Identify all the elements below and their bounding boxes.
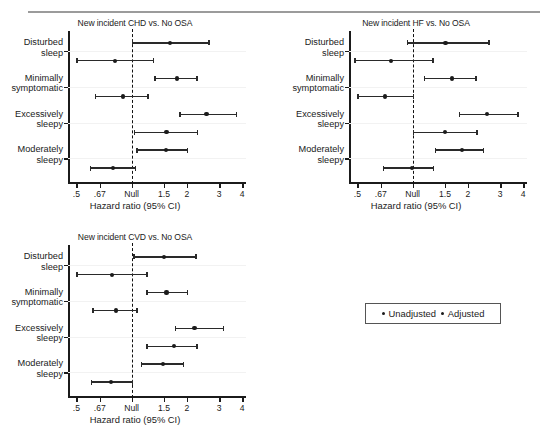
x-tick	[132, 398, 133, 402]
ci-cap	[187, 290, 188, 295]
point-estimate-marker	[111, 166, 115, 170]
confidence-interval-line	[175, 328, 223, 330]
ci-cap	[146, 344, 147, 349]
point-estimate-marker	[168, 41, 172, 45]
point-estimate-marker	[172, 344, 176, 348]
ci-cap	[134, 130, 135, 135]
category-label-line: Minimally	[280, 73, 344, 84]
x-tick-label: .67	[94, 403, 106, 413]
category-separator	[349, 87, 527, 88]
confidence-interval-line	[435, 149, 483, 151]
category-label: Moderatelysleepy	[280, 144, 344, 165]
category-label: Excessivelysleepy	[280, 109, 344, 130]
x-tick-label: 2	[184, 189, 189, 199]
x-tick	[164, 398, 165, 402]
ci-cap	[354, 58, 355, 63]
point-estimate-marker	[410, 166, 414, 170]
x-tick	[187, 398, 188, 402]
x-tick-label: 3	[217, 189, 222, 199]
point-estimate-marker	[450, 76, 454, 80]
category-label: Disturbedsleep	[280, 37, 344, 58]
panel-chd-title: New incident CHD vs. No OSA	[0, 18, 270, 28]
ci-cap	[197, 130, 198, 135]
null-reference-line	[132, 243, 133, 398]
ci-cap	[196, 76, 197, 81]
x-tick-label: 4	[521, 189, 526, 199]
legend-label-unadjusted: Unadjusted	[389, 308, 436, 319]
x-tick-label: .67	[375, 189, 387, 199]
point-estimate-marker	[164, 148, 168, 152]
y-axis-line	[68, 245, 70, 398]
ci-cap	[459, 112, 460, 117]
x-tick	[100, 398, 101, 402]
x-tick-label: 3	[498, 189, 503, 199]
x-tick	[445, 184, 446, 188]
ci-cap	[383, 166, 384, 171]
point-estimate-marker	[192, 326, 196, 330]
ci-cap	[95, 94, 96, 99]
x-tick	[132, 184, 133, 188]
x-tick-label: 2	[465, 189, 470, 199]
point-estimate-marker	[162, 255, 166, 259]
category-label-line: Moderately	[280, 144, 344, 155]
x-tick	[164, 184, 165, 188]
ci-cap	[154, 76, 155, 81]
category-label-line: symptomatic	[0, 83, 63, 94]
ci-cap	[517, 112, 518, 117]
x-tick-label: Null	[124, 189, 139, 199]
x-tick	[413, 184, 414, 188]
x-tick-label: Null	[124, 403, 139, 413]
ci-cap	[183, 362, 184, 367]
legend-dot-adjusted-icon	[441, 312, 444, 315]
ci-cap	[136, 148, 137, 153]
x-tick	[219, 184, 220, 188]
point-estimate-marker	[164, 130, 168, 134]
point-estimate-marker	[113, 59, 117, 63]
category-label: Minimallysymptomatic	[0, 73, 63, 94]
y-axis-line	[68, 31, 70, 184]
x-tick	[242, 398, 243, 402]
x-tick	[242, 184, 243, 188]
point-estimate-marker	[443, 130, 447, 134]
legend-item-unadjusted: Unadjusted	[382, 308, 436, 319]
ci-cap	[133, 254, 134, 259]
category-label-line: Disturbed	[280, 37, 344, 48]
category-separator	[68, 337, 246, 338]
y-tick	[64, 265, 69, 266]
category-label-line: sleep	[0, 48, 63, 59]
point-estimate-marker	[164, 290, 168, 294]
category-label: Excessivelysleepy	[0, 323, 63, 344]
ci-cap	[413, 130, 414, 135]
category-separator	[349, 158, 527, 159]
category-label-line: Moderately	[0, 144, 63, 155]
category-label-line: Disturbed	[0, 251, 63, 262]
ci-cap	[413, 94, 414, 99]
category-label-line: sleepy	[0, 369, 63, 380]
category-label: Disturbedsleep	[0, 251, 63, 272]
y-tick	[64, 51, 69, 52]
point-estimate-marker	[161, 362, 165, 366]
ci-cap	[196, 344, 197, 349]
category-label: Minimallysymptomatic	[280, 73, 344, 94]
category-label-line: Disturbed	[0, 37, 63, 48]
x-tick	[468, 184, 469, 188]
x-tick-label: 2	[184, 403, 189, 413]
point-estimate-marker	[175, 76, 179, 80]
x-tick	[187, 184, 188, 188]
category-separator	[349, 51, 527, 52]
y-tick	[64, 123, 69, 124]
x-axis-title: Hazard ratio (95% CI)	[281, 200, 551, 211]
ci-cap	[132, 380, 133, 385]
y-tick	[64, 87, 69, 88]
point-estimate-marker	[204, 112, 208, 116]
x-tick-label: Null	[405, 189, 420, 199]
ci-cap	[208, 40, 209, 45]
x-axis-title: Hazard ratio (95% CI)	[0, 414, 270, 425]
category-separator	[68, 51, 246, 52]
category-separator	[68, 123, 246, 124]
category-label-line: sleepy	[280, 155, 344, 166]
ci-cap	[432, 58, 433, 63]
category-separator	[349, 123, 527, 124]
panel-hf: New incident HF vs. No OSA .5.67Null1.52…	[281, 18, 551, 218]
ci-cap	[187, 148, 188, 153]
